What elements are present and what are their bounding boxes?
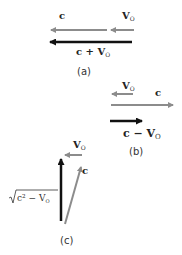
panel-b: VO c c − VO (b) [110,80,173,157]
label-c: c [59,10,65,21]
label-c: c [82,165,88,176]
label-c: c [155,87,161,98]
caption-b: (b) [129,146,143,157]
caption-a: (a) [77,66,91,77]
svg-text:c² − VO: c² − VO [17,193,50,204]
panel-a: c VO c + VO (a) [50,10,135,77]
difference-label: c − VO [123,127,161,141]
label-vo: VO [121,10,135,22]
label-vo: VO [72,139,86,151]
velocity-addition-diagram: c VO c + VO (a) VO c c − VO (b) VO c c² … [0,0,182,255]
panel-c: VO c c² − VO (c) [9,139,88,246]
caption-c: (c) [60,235,73,246]
c-vector-arrow [65,167,81,224]
sqrt-label: c² − VO [9,190,58,204]
label-vo: VO [121,80,135,92]
sum-label: c + VO [76,46,110,58]
